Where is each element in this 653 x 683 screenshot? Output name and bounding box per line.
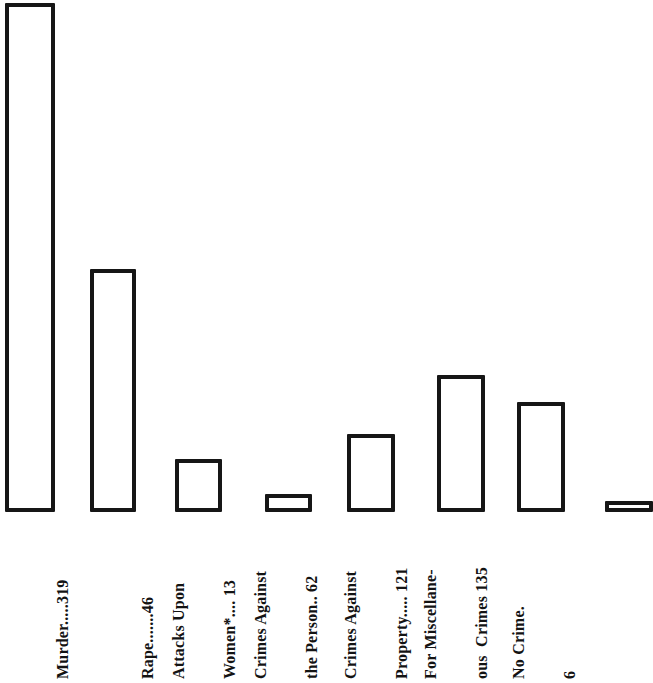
category-label-line: No Crime. bbox=[510, 606, 527, 679]
bar-miscellaneous-crimes bbox=[517, 402, 565, 512]
category-label-line: Attacks Upon bbox=[170, 580, 187, 679]
category-label-line: Murder.....319 bbox=[54, 579, 71, 679]
bar-crimes-against-the-person bbox=[347, 434, 395, 512]
bar-total-lynched bbox=[5, 3, 55, 512]
category-label-murder: Murder.....319 bbox=[20, 579, 105, 679]
category-label-line: For Miscellane- bbox=[422, 567, 439, 679]
category-label-no-crime: No Crime. 6 bbox=[476, 606, 612, 679]
chart-plot-area bbox=[0, 0, 651, 515]
bar-attacks-upon-women bbox=[265, 494, 312, 512]
bar-crimes-against-property bbox=[437, 375, 485, 512]
category-label-line: Crimes Against bbox=[342, 567, 359, 679]
bar-murder bbox=[90, 269, 136, 512]
chart-category-labels: Total Lynched....702 Murder.....319 Rape… bbox=[0, 515, 651, 683]
bar-rape bbox=[175, 459, 222, 512]
category-label-line: 6 bbox=[561, 606, 578, 679]
category-label-total-lynched: Total Lynched....702 bbox=[0, 578, 13, 680]
category-label-line: Crimes Against bbox=[252, 571, 269, 679]
bar-no-crime bbox=[605, 501, 653, 512]
